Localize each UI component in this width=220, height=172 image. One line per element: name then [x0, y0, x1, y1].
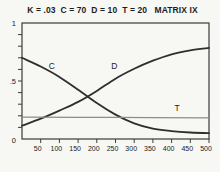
- y-tick-label: 1: [12, 19, 16, 28]
- plot-svg: 1.5050100150200250300350400450500CDT: [0, 0, 220, 172]
- x-tick-label: 300: [125, 145, 137, 152]
- x-tick-label: 150: [69, 145, 81, 152]
- y-tick-label: .5: [10, 77, 16, 86]
- figure: K = .03 C = 70 D = 10 T = 20 MATRIX IX 1…: [0, 0, 220, 172]
- plot-frame: [22, 23, 209, 139]
- x-tick-label: 500: [200, 145, 212, 152]
- series-curve-T: [22, 117, 209, 118]
- x-tick-label: 450: [181, 145, 193, 152]
- x-tick-label: 50: [34, 145, 42, 152]
- x-tick-label: 250: [107, 145, 119, 152]
- x-tick-label: 200: [88, 145, 100, 152]
- curve-label-D: D: [111, 61, 117, 71]
- y-tick-label: 0: [12, 136, 16, 145]
- x-tick-label: 350: [144, 145, 156, 152]
- x-tick-label: 400: [163, 145, 175, 152]
- curve-label-C: C: [49, 61, 55, 71]
- curve-label-T: T: [175, 103, 180, 113]
- x-tick-label: 100: [51, 145, 63, 152]
